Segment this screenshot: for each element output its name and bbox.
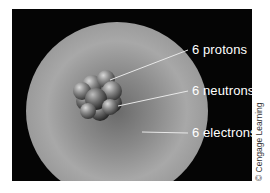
atom-diagram-panel: 6 protons 6 neutrons 6 electrons: [12, 9, 252, 181]
label-neutrons: 6 neutrons: [192, 83, 252, 98]
label-protons: 6 protons: [192, 42, 247, 57]
label-electrons: 6 electrons: [192, 125, 252, 140]
copyright-credit: © Cengage Learning: [254, 102, 264, 181]
